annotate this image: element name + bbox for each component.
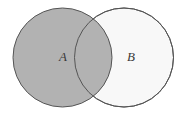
venn-diagram: A B: [0, 0, 187, 115]
venn-diagram-canvas: A B: [0, 0, 187, 115]
set-label-a: A: [58, 49, 67, 64]
set-label-b: B: [127, 49, 135, 64]
